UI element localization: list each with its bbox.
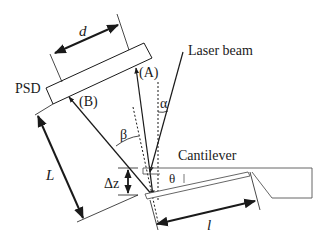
label-l: l <box>207 217 211 233</box>
label-point-b: (B) <box>79 94 98 110</box>
L-dimension <box>35 104 138 222</box>
label-psd: PSD <box>15 81 41 96</box>
l-extension-line-left <box>150 200 158 230</box>
label-point-a: (A) <box>139 65 159 81</box>
psd-detector <box>46 43 152 104</box>
delta-z-dimension <box>118 168 138 195</box>
afm-optical-lever-diagram: d PSD Laser beam (A) (B) α β Cantilever … <box>0 0 328 247</box>
label-theta: θ <box>169 171 175 186</box>
normal-dashed-b <box>133 107 158 222</box>
l-extension-line <box>250 172 260 210</box>
label-laser-beam: Laser beam <box>188 43 253 58</box>
label-beta: β <box>120 127 127 142</box>
reflected-beam-a <box>136 68 150 172</box>
cantilever-deflected <box>145 172 250 199</box>
label-alpha: α <box>160 96 168 111</box>
label-d: d <box>79 23 87 39</box>
label-delta-z: Δz <box>104 176 119 191</box>
label-L: L <box>45 167 54 183</box>
label-cantilever: Cantilever <box>178 148 237 163</box>
l-dimension-arrow <box>157 201 255 224</box>
